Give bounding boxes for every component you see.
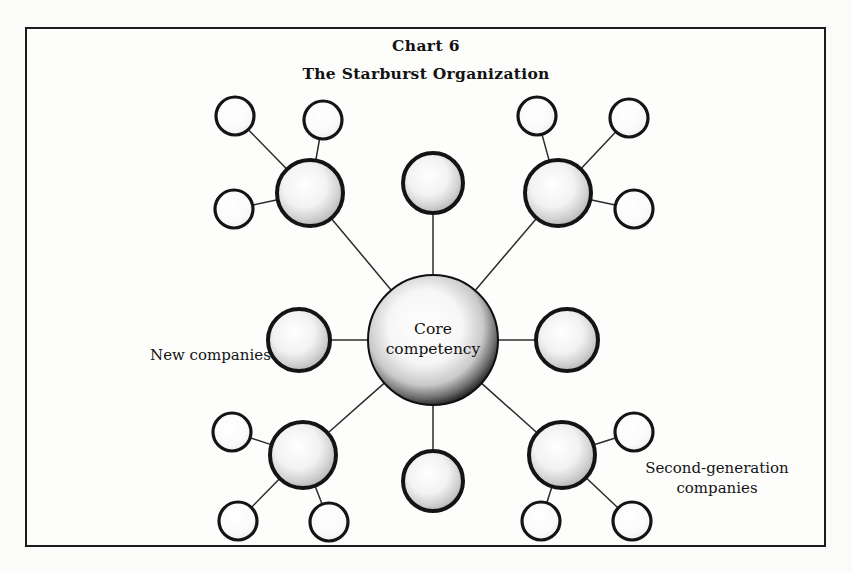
label-second-generation-companies: Second-generation companies xyxy=(617,458,817,499)
connector-line xyxy=(327,382,385,433)
connector-line xyxy=(251,478,281,508)
new-company-node[interactable] xyxy=(277,160,343,226)
second-generation-company-node[interactable] xyxy=(304,101,342,139)
connector-line xyxy=(316,138,320,162)
new-company-node[interactable] xyxy=(270,422,336,488)
connector-line xyxy=(331,218,392,291)
connector-line xyxy=(475,217,538,291)
connector-line xyxy=(249,438,273,446)
new-company-node[interactable] xyxy=(529,422,595,488)
connector-line xyxy=(542,133,550,162)
second-generation-company-node[interactable] xyxy=(216,97,254,135)
new-company-node[interactable] xyxy=(536,309,598,371)
connector-line xyxy=(585,477,619,509)
label-second-generation-line1: Second-generation xyxy=(617,458,817,478)
connector-line xyxy=(481,383,538,434)
second-generation-company-node[interactable] xyxy=(215,190,253,228)
core-hub-group: Corecompetency xyxy=(368,275,498,405)
label-second-generation-line2: companies xyxy=(617,478,817,498)
new-company-node[interactable] xyxy=(268,309,330,371)
new-company-node[interactable] xyxy=(403,153,463,213)
connector-line xyxy=(252,200,279,206)
second-generation-company-node[interactable] xyxy=(310,503,348,541)
second-generation-company-node[interactable] xyxy=(518,97,556,135)
connector-line xyxy=(593,438,617,446)
second-generation-company-node[interactable] xyxy=(213,413,251,451)
connector-line xyxy=(248,129,288,170)
new-company-node[interactable] xyxy=(525,160,591,226)
second-generation-company-node[interactable] xyxy=(522,502,560,540)
second-generation-company-node[interactable] xyxy=(610,99,648,137)
second-generation-company-node[interactable] xyxy=(219,502,257,540)
connector-line xyxy=(315,485,323,505)
second-generation-company-node[interactable] xyxy=(613,502,651,540)
connector-line xyxy=(580,131,617,170)
connector-line xyxy=(589,200,616,206)
label-new-companies: New companies xyxy=(150,345,271,365)
new-company-node[interactable] xyxy=(403,451,463,511)
chart-page: Chart 6 The Starburst Organization xyxy=(0,0,852,573)
second-generation-company-node[interactable] xyxy=(615,413,653,451)
second-generation-company-node[interactable] xyxy=(615,190,653,228)
